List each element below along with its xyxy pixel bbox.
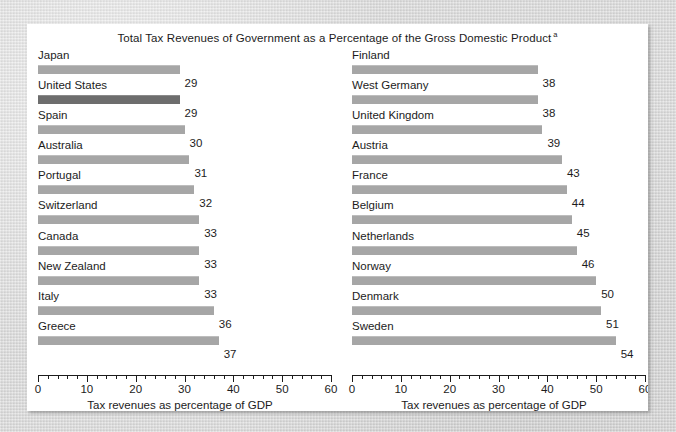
bar-track: 30 — [38, 125, 331, 134]
bar-category-label: Spain — [38, 108, 67, 122]
axis-tick-minor — [214, 375, 215, 379]
bar — [38, 65, 180, 74]
axis-tick-minor — [263, 375, 264, 379]
right-panel-rows: Finland38West Germany38United Kingdom39A… — [343, 48, 645, 349]
bar — [352, 306, 601, 315]
bar — [352, 215, 572, 224]
axis-tick-minor — [381, 375, 382, 379]
left-panel-rows: Japan29United States29Spain30Australia31… — [29, 48, 331, 349]
footnote-marker: a — [553, 30, 557, 39]
bar-row: Switzerland33 — [29, 198, 331, 228]
axis-tick-minor — [145, 375, 146, 379]
bar-category-label: Finland — [352, 48, 390, 62]
bar — [38, 246, 199, 255]
axis-tick-major — [136, 375, 137, 382]
bar — [352, 95, 538, 104]
bar — [352, 336, 616, 345]
bar-row: France44 — [343, 168, 645, 198]
axis-tick-minor — [577, 375, 578, 379]
axis-tick-label: 0 — [349, 383, 355, 395]
axis-tick-label: 0 — [35, 383, 41, 395]
axis-tick-major — [499, 375, 500, 382]
bar — [38, 185, 194, 194]
axis-tick-minor — [557, 375, 558, 379]
bar-row: Greece37 — [29, 319, 331, 349]
axis-tick-minor — [508, 375, 509, 379]
bar-track: 38 — [352, 95, 645, 104]
axis-tick-label: 60 — [325, 383, 338, 395]
axis-tick-minor — [106, 375, 107, 379]
axis-tick-label: 10 — [394, 383, 407, 395]
right-panel-axis-title: Tax revenues as percentage of GDP — [343, 399, 645, 411]
bar-row: Netherlands46 — [343, 229, 645, 259]
bar — [352, 276, 596, 285]
axis-tick-minor — [165, 375, 166, 379]
axis-tick-minor — [77, 375, 78, 379]
axis-tick-minor — [243, 375, 244, 379]
axis-tick-major — [38, 375, 39, 382]
axis-tick-major — [185, 375, 186, 382]
axis-tick-minor — [616, 375, 617, 379]
bar-row: Norway50 — [343, 259, 645, 289]
bar-row: United States29 — [29, 78, 331, 108]
axis-tick-minor — [625, 375, 626, 379]
bar-track: 45 — [352, 215, 645, 224]
figure-panel: Total Tax Revenues of Government as a Pe… — [27, 24, 648, 411]
bar-row: United Kingdom39 — [343, 108, 645, 138]
right-panel: Finland38West Germany38United Kingdom39A… — [343, 48, 645, 406]
axis-tick-major — [282, 375, 283, 382]
bar-row: West Germany38 — [343, 78, 645, 108]
bar-category-label: Australia — [38, 138, 83, 152]
bar-category-label: West Germany — [352, 78, 428, 92]
bar-category-label: Belgium — [352, 198, 394, 212]
left-panel-axis-title: Tax revenues as percentage of GDP — [29, 399, 331, 411]
bar-category-label: United States — [38, 78, 107, 92]
bar — [352, 125, 542, 134]
bar-category-label: Japan — [38, 48, 69, 62]
axis-tick-major — [450, 375, 451, 382]
axis-tick-major — [596, 375, 597, 382]
bar — [38, 155, 189, 164]
bar-row: Italy36 — [29, 289, 331, 319]
axis-tick-minor — [155, 375, 156, 379]
axis-tick-minor — [302, 375, 303, 379]
bar — [352, 155, 562, 164]
bar-row: Spain30 — [29, 108, 331, 138]
bar-track: 38 — [352, 65, 645, 74]
axis-tick-label: 40 — [541, 383, 554, 395]
left-panel: Japan29United States29Spain30Australia31… — [29, 48, 331, 406]
axis-tick-major — [352, 375, 353, 382]
bar-category-label: France — [352, 168, 388, 182]
axis-tick-label: 50 — [590, 383, 603, 395]
bar-row: Sweden54 — [343, 319, 645, 349]
axis-tick-minor — [430, 375, 431, 379]
bar-track: 33 — [38, 215, 331, 224]
axis-tick-minor — [224, 375, 225, 379]
axis-tick-minor — [194, 375, 195, 379]
bar-track: 33 — [38, 246, 331, 255]
axis-tick-minor — [489, 375, 490, 379]
axis-tick-minor — [518, 375, 519, 379]
axis-tick-label: 30 — [178, 383, 191, 395]
bar — [38, 306, 214, 315]
axis-tick-minor — [253, 375, 254, 379]
axis-tick-minor — [292, 375, 293, 379]
bar-track: 33 — [38, 276, 331, 285]
bar-row: Portugal32 — [29, 168, 331, 198]
bar-category-label: Netherlands — [352, 229, 414, 243]
bar-row: Australia31 — [29, 138, 331, 168]
bar-track: 29 — [38, 65, 331, 74]
axis-tick-minor — [440, 375, 441, 379]
bar-category-label: Austria — [352, 138, 388, 152]
axis-tick-minor — [528, 375, 529, 379]
bar-category-label: Sweden — [352, 319, 394, 333]
bar-track: 37 — [38, 336, 331, 345]
bar — [38, 215, 199, 224]
bar-track: 54 — [352, 336, 645, 345]
bar-row: Belgium45 — [343, 198, 645, 228]
bar-row: Canada33 — [29, 229, 331, 259]
bar-category-label: Italy — [38, 289, 59, 303]
bar-category-label: Canada — [38, 229, 78, 243]
bar-value-label: 54 — [621, 348, 634, 360]
axis-tick-minor — [420, 375, 421, 379]
